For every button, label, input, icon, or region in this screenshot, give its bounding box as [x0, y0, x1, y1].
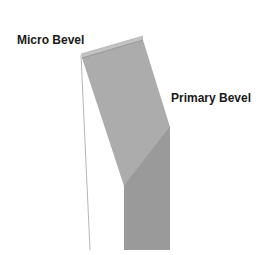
blade-bevel-diagram: Micro Bevel Primary Bevel [0, 0, 263, 255]
micro-bevel-label: Micro Bevel [17, 33, 84, 47]
blade-back-edge-line [81, 55, 90, 250]
primary-bevel-label: Primary Bevel [171, 91, 251, 105]
